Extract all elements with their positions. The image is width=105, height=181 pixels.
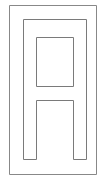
counter-square	[37, 38, 74, 87]
figure-canvas: Letter A glyph outline	[0, 0, 105, 181]
glyph-outline-figure: Letter A glyph outline	[0, 0, 105, 181]
